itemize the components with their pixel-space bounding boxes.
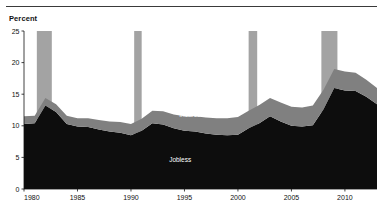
y-tick-label-1: 5	[16, 154, 20, 161]
x-tick-label-6: 2010	[337, 194, 353, 201]
series-annotation-jobless: Jobless	[169, 156, 192, 163]
x-tick-label-1: 1985	[70, 194, 86, 201]
x-tick-label-3: 1995	[177, 194, 193, 201]
x-tick-label-4: 2000	[230, 194, 246, 201]
y-tick-label-3: 15	[12, 91, 20, 98]
y-tick-label-2: 10	[12, 122, 20, 129]
x-tick-label-2: 1990	[123, 194, 139, 201]
y-tick-label-0: 0	[16, 186, 20, 193]
x-tick-label-0: 1980	[24, 194, 40, 201]
chart-figure: Percent 05101520251980198519901995200020…	[0, 0, 383, 219]
x-tick-label-5: 2005	[284, 194, 300, 201]
series-annotation-incarcerated: Incarcerated	[179, 111, 216, 118]
y-tick-label-5: 25	[12, 28, 20, 35]
stacked-area-chart: 05101520251980198519901995200020052010 I…	[0, 0, 383, 219]
y-tick-label-4: 20	[12, 59, 20, 66]
